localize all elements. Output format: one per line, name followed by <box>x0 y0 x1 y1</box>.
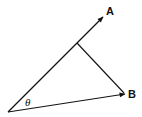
projection-perpendicular <box>77 43 124 93</box>
vector-a-line <box>8 17 103 112</box>
angle-theta-label: θ <box>25 96 31 108</box>
label-b: B <box>128 88 136 100</box>
label-a: A <box>106 5 114 17</box>
vector-diagram: A B θ <box>0 0 142 117</box>
